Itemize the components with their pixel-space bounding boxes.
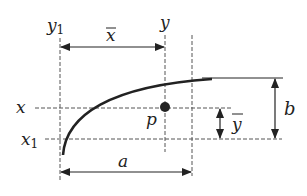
label-y: y (159, 12, 170, 32)
centroid-point (160, 102, 170, 112)
label-x: x (16, 97, 26, 117)
label-b: b (284, 98, 296, 119)
label-y1: y1 (46, 15, 64, 37)
label-a: a (118, 151, 128, 171)
label-p: p (146, 109, 157, 129)
curve (63, 79, 212, 155)
label-x1: x1 (21, 129, 38, 151)
label-ybar: y (231, 114, 242, 134)
centroid-diagram: y1 y x x x1 p y a b (0, 0, 307, 196)
